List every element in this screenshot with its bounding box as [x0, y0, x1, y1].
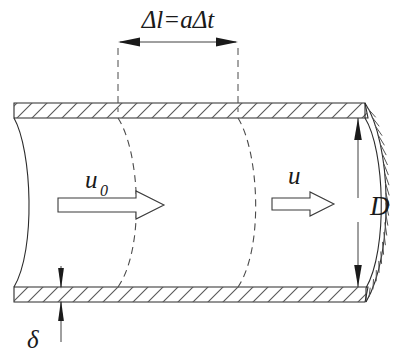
arrowhead-right	[216, 38, 238, 47]
pipe-flow-diagram: Δl=aΔt D δ u 0 u	[0, 0, 401, 356]
fluid-left-boundary	[14, 118, 29, 287]
diameter-arrowhead-bottom	[354, 265, 362, 287]
pipe-bottom-wall	[14, 287, 368, 303]
diameter-arrowhead-top	[354, 118, 362, 140]
velocity-arrow-u0	[58, 191, 164, 219]
arrowhead-left	[118, 38, 140, 47]
label-diameter: D	[369, 191, 390, 221]
thickness-arrowhead-lower	[58, 300, 64, 321]
velocity-u-group: u	[272, 162, 334, 216]
label-u0: u	[85, 166, 98, 193]
label-u0-subscript: 0	[100, 182, 108, 199]
dimension-delta-l: Δl=aΔt	[118, 6, 238, 112]
label-u: u	[288, 162, 301, 189]
wave-front-2	[238, 118, 256, 287]
label-wall-thickness: δ	[27, 326, 39, 353]
dimension-diameter: D	[354, 118, 390, 287]
pipe-top-wall	[14, 103, 368, 119]
thickness-arrowhead-upper	[58, 268, 64, 289]
velocity-u0-group: u 0	[58, 166, 164, 219]
dimension-wall-thickness: δ	[27, 266, 64, 353]
bottom-wall-hatching	[14, 287, 368, 303]
top-wall-hatching	[14, 103, 368, 119]
label-delta-l: Δl=aΔt	[141, 6, 216, 33]
velocity-arrow-u	[272, 192, 334, 216]
